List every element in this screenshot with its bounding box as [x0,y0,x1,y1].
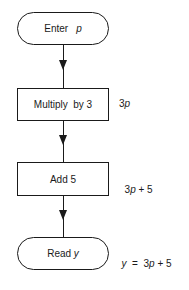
multiply-process-box: Multiply by 3 [17,88,109,121]
start-label-var: p [76,23,82,34]
end-label: Read y [47,248,79,259]
arrow-down-icon [59,60,67,70]
end-label-text: Read [47,248,71,259]
add-annotation: 3p + 5 [119,173,153,195]
ann-eq: = 3 [127,258,150,269]
arrow-down-icon [59,135,67,145]
arrow-down-icon [59,210,67,220]
end-terminal: Read y [17,237,109,270]
start-label: Enterp [44,23,81,34]
multiply-annotation: 3p [119,98,130,109]
add-label: Add 5 [50,174,76,185]
ann-var: p [125,98,131,109]
start-label-text: Enter [44,23,68,34]
ann-rest: + 5 [155,258,172,269]
add-process-box: Add 5 [17,162,109,196]
multiply-label: Multiply by 3 [34,99,92,110]
start-terminal: Enterp [17,12,109,45]
ann-rest: + 5 [136,184,153,195]
end-label-var: y [74,248,79,259]
end-annotation: y = 3p + 5 [116,247,172,269]
